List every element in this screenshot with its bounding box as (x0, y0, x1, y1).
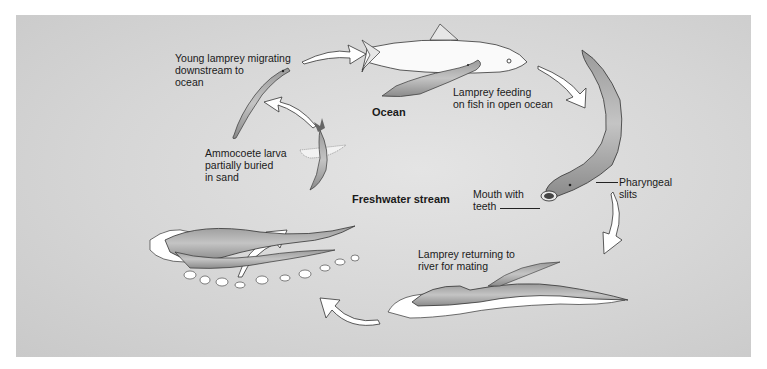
region-label-freshwater: Freshwater stream (352, 193, 450, 205)
cycle-arrow-icon (264, 97, 316, 128)
larva-illustration (300, 118, 346, 190)
cycle-arrow-icon (603, 192, 622, 254)
stage-label-young-migrating: Young lamprey migrating downstream to oc… (175, 52, 291, 88)
region-label-ocean: Ocean (372, 106, 406, 118)
leader-line-mouth (500, 208, 540, 209)
spawning-lamprey-illustration (150, 226, 359, 288)
stage-label-returning: Lamprey returning to river for mating (418, 248, 515, 272)
cycle-arrow-icon (320, 298, 380, 325)
stage-label-feeding: Lamprey feeding on fish in open ocean (453, 86, 553, 110)
anatomy-label-pharyngeal: Pharyngeal slits (619, 176, 672, 200)
leader-line-pharyngeal (596, 182, 618, 183)
cycle-arrow-icon (302, 45, 366, 64)
stage-label-larva: Ammocoete larva partially buried in sand (205, 147, 287, 183)
